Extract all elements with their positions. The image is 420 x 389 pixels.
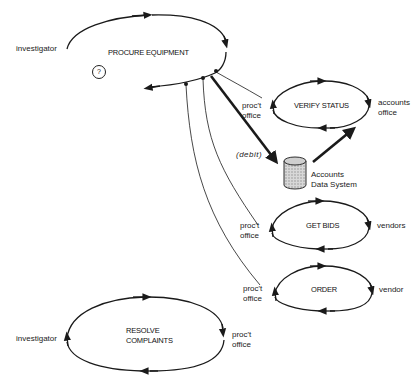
order-right-role: vendor xyxy=(379,285,403,295)
order-left-role-line2: office xyxy=(243,294,262,304)
verify-left-role-line1: proc't xyxy=(242,101,261,111)
database-label-line1: Accounts xyxy=(311,170,357,180)
workflow-diagram xyxy=(0,0,420,389)
database-to-verify-arrow xyxy=(313,130,352,162)
resolve-right-role-line2: office xyxy=(232,340,251,350)
verify-left-role: proc't office xyxy=(242,101,261,121)
bids-right-role: vendors xyxy=(377,221,405,231)
procure-equipment-title: PROCURE EQUIPMENT xyxy=(108,48,189,58)
verify-right-role-line2: office xyxy=(378,108,410,118)
bids-left-role: proc't office xyxy=(240,221,259,241)
database-cylinder-icon xyxy=(284,157,306,189)
resolve-title-line2: COMPLAINTS xyxy=(126,336,173,346)
resolve-complaints-title: RESOLVE COMPLAINTS xyxy=(126,326,173,346)
verify-right-role: accounts office xyxy=(378,98,410,118)
resolve-right-role-line1: proc't xyxy=(232,330,251,340)
verify-status-title: VERIFY STATUS xyxy=(294,101,349,111)
resolve-left-role: investigator xyxy=(16,334,57,344)
order-title: ORDER xyxy=(311,285,337,295)
bids-left-role-line1: proc't xyxy=(240,221,259,231)
database-label: Accounts Data System xyxy=(311,170,357,190)
resolve-title-line1: RESOLVE xyxy=(126,326,173,336)
bids-left-role-line2: office xyxy=(240,231,259,241)
connector-to-verify xyxy=(216,72,262,98)
order-left-role: proc't office xyxy=(243,284,262,304)
procure-left-role: investigator xyxy=(16,44,57,54)
verify-left-role-line2: office xyxy=(242,111,261,121)
order-left-role-line1: proc't xyxy=(243,284,262,294)
debit-label: (debit) xyxy=(236,150,262,160)
resolve-right-role: proc't office xyxy=(232,330,251,350)
get-bids-title: GET BIDS xyxy=(306,221,339,231)
database-label-line2: Data System xyxy=(311,180,357,190)
question-mark-icon: ? xyxy=(92,65,106,79)
verify-right-role-line1: accounts xyxy=(378,98,410,108)
